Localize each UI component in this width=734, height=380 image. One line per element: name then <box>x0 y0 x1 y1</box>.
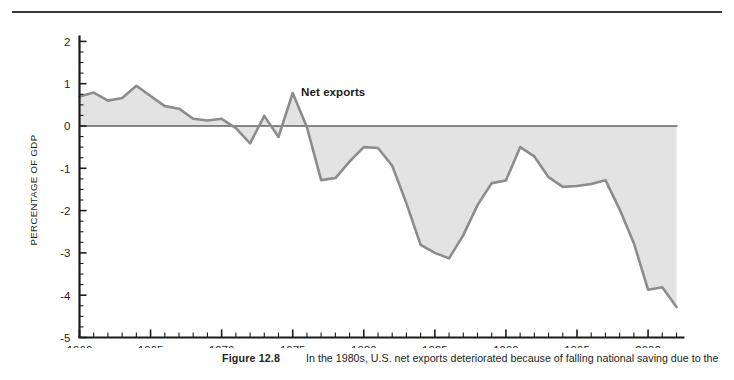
net-exports-area-chart: 210-1-2-3-4-5 19601965197019751980198519… <box>0 0 734 348</box>
svg-text:-5: -5 <box>60 332 70 344</box>
figure-number: Figure 12.8 <box>222 352 280 364</box>
figure-container: 210-1-2-3-4-5 19601965197019751980198519… <box>0 0 734 380</box>
svg-text:-2: -2 <box>60 205 70 217</box>
svg-text:1975: 1975 <box>280 344 306 349</box>
svg-text:1970: 1970 <box>209 344 235 349</box>
chart-plot-area: 210-1-2-3-4-5 19601965197019751980198519… <box>0 0 734 348</box>
svg-text:2: 2 <box>64 36 70 48</box>
x-axis-tick-labels: 196019651970197519801985199019952000 <box>67 344 661 349</box>
svg-text:1995: 1995 <box>564 344 590 349</box>
series-area-fill <box>80 86 677 307</box>
svg-text:1: 1 <box>64 78 70 90</box>
y-axis-title: PERCENTAGE OF GDP <box>28 135 39 246</box>
figure-caption-text: In the 1980s, U.S. net exports deteriora… <box>306 352 718 364</box>
y-axis-tick-labels: 210-1-2-3-4-5 <box>60 36 71 344</box>
y-axis <box>80 35 87 337</box>
svg-text:1965: 1965 <box>138 344 164 349</box>
svg-text:1980: 1980 <box>351 344 377 349</box>
svg-text:-4: -4 <box>60 290 71 302</box>
svg-text:PERCENTAGE OF GDP: PERCENTAGE OF GDP <box>28 135 39 246</box>
series-annotation-net-exports: Net exports <box>301 86 365 98</box>
svg-text:1985: 1985 <box>422 344 448 349</box>
figure-caption: Figure 12.8In the 1980s, U.S. net export… <box>0 352 734 364</box>
svg-text:-3: -3 <box>60 247 70 259</box>
svg-text:0: 0 <box>64 120 70 132</box>
x-axis <box>79 330 685 338</box>
svg-text:1960: 1960 <box>67 344 93 349</box>
svg-text:2000: 2000 <box>635 344 661 349</box>
svg-text:-1: -1 <box>60 163 70 175</box>
svg-text:1990: 1990 <box>493 344 519 349</box>
